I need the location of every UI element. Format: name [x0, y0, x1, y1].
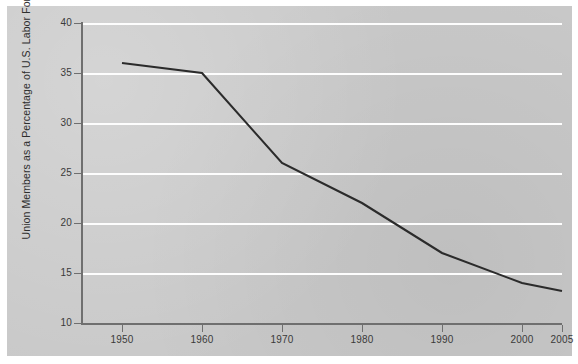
y-axis-tick-label: 35 — [56, 67, 72, 78]
y-axis-tick — [74, 123, 81, 124]
y-axis-tick — [74, 223, 81, 224]
x-axis-tick — [122, 325, 123, 332]
gridline — [82, 273, 562, 275]
page-margin-right — [572, 0, 578, 364]
y-axis-tick — [74, 173, 81, 174]
x-axis-tick-label: 2000 — [510, 334, 533, 345]
y-axis-tick — [74, 273, 81, 274]
x-axis-tick-label: 2005 — [550, 334, 573, 345]
page-margin-top — [0, 0, 578, 6]
gridline — [82, 73, 562, 75]
x-axis-line — [81, 323, 562, 325]
x-axis-tick-label: 1990 — [430, 334, 453, 345]
y-axis-title: Union Members as a Percentage of U.S. La… — [20, 0, 32, 252]
x-axis-tick-label: 1970 — [270, 334, 293, 345]
gridline — [82, 173, 562, 175]
y-axis-tick-label: 40 — [56, 17, 72, 28]
x-axis-tick — [282, 325, 283, 332]
plot-area — [82, 23, 562, 323]
y-axis-tick-label: 30 — [56, 117, 72, 128]
gridline — [82, 223, 562, 225]
x-axis-tick — [562, 325, 563, 332]
y-axis-line — [81, 22, 83, 324]
y-axis-tick — [74, 73, 81, 74]
x-axis-tick-label: 1980 — [350, 334, 373, 345]
chart-figure: Union Members as a Percentage of U.S. La… — [0, 0, 578, 364]
y-axis-tick-label: 15 — [56, 267, 72, 278]
x-axis-tick-label: 1960 — [190, 334, 213, 345]
y-axis-tick-label: 25 — [56, 167, 72, 178]
x-axis-tick — [362, 325, 363, 332]
x-axis-tick — [442, 325, 443, 332]
page-margin-bottom — [0, 356, 578, 364]
gridline — [82, 123, 562, 125]
x-axis-tick — [202, 325, 203, 332]
y-axis-tick — [74, 23, 81, 24]
y-axis-tick-label: 10 — [56, 317, 72, 328]
gridline — [82, 23, 562, 25]
x-axis-tick-label: 1950 — [110, 334, 133, 345]
x-axis-tick — [522, 325, 523, 332]
y-axis-tick-label: 20 — [56, 217, 72, 228]
y-axis-tick — [74, 323, 81, 324]
page-margin-left — [0, 0, 7, 364]
